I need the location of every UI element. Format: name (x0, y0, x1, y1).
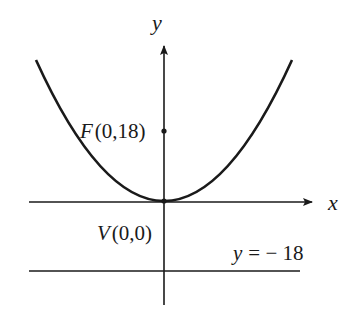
focus-label-coords: (0,18) (95, 119, 146, 143)
directrix-label-lhs: y (231, 241, 243, 265)
focus-label-letter: F (79, 119, 93, 143)
directrix-label-rhs: = − 18 (248, 241, 303, 265)
vertex-label: V(0,0) (97, 221, 152, 245)
directrix-label: y= − 18 (231, 241, 304, 265)
vertex-point (161, 198, 166, 203)
focus-point (161, 128, 166, 133)
vertex-label-letter: V (97, 221, 112, 245)
parabola-diagram: y x F(0,18) V(0,0) y= − 18 (0, 0, 363, 331)
x-axis-label: x (327, 190, 338, 215)
vertex-label-coords: (0,0) (112, 221, 152, 245)
focus-label: F(0,18) (79, 119, 146, 143)
y-axis-label: y (150, 10, 162, 35)
